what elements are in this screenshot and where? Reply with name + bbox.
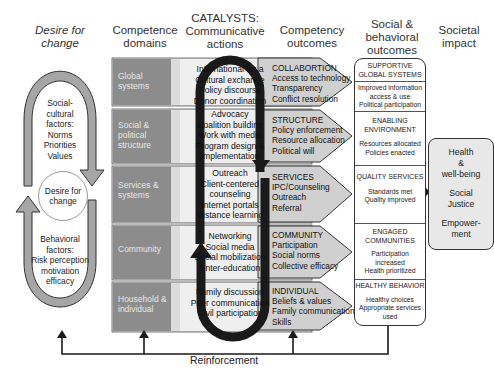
actions-global: International for aCultural exchangePoli… <box>188 64 272 106</box>
domain-social-political: Social & political structure <box>118 120 168 150</box>
outcome-structure: STRUCTUREPolicy enforcementResource allo… <box>272 115 345 156</box>
behavioral-factors: Behavioral factors: Risk perception moti… <box>26 234 94 287</box>
actions-social-political: AdvocacyCoalition buildingWork with medi… <box>186 109 274 162</box>
outcome-services: SERVICESIPC/CounselingOutreachReferral <box>272 172 330 213</box>
domain-services-systems: Services & systems <box>118 180 170 200</box>
domain-household-individual: Household & individual <box>118 294 170 314</box>
actions-community: NetworkingSocial mediaSocial mobilizatio… <box>186 231 274 273</box>
socio-cultural-factors: Social- cultural factors: Norms Prioriti… <box>30 98 90 161</box>
sb-supportive-global-systems: SUPPORTIVE GLOBAL SYSTEMS Improved infor… <box>355 62 425 110</box>
sb-quality-services: QUALITY SERVICES Standards metQuality im… <box>355 173 425 205</box>
actions-services: OutreachClient-centeredcounselingInterne… <box>186 168 274 221</box>
sb-engaged-communities: ENGAGED COMMUNITIES Participationincreas… <box>355 228 425 276</box>
outcome-individual: INDIVIDUALBeliefs & valuesFamily communi… <box>272 286 355 327</box>
outcome-collaboration: COLLABORTIONAccess to technologyTranspar… <box>272 63 350 104</box>
social-behavioral-outcomes-box: SUPPORTIVE GLOBAL SYSTEMS Improved infor… <box>354 58 426 326</box>
actions-household: Family discussionPeer communicationCivil… <box>186 287 274 319</box>
domain-community: Community <box>118 244 170 254</box>
outcome-community: COMMUNITYParticipationSocial normsCollec… <box>272 230 338 271</box>
societal-impact-box: Health & well-being Social Justice Empow… <box>428 138 494 250</box>
reinforcement-label: Reinforcement <box>190 354 258 366</box>
desire-for-change-circle: Desire for change <box>38 171 88 221</box>
domain-global-systems: Global systems <box>118 71 168 91</box>
sb-healthy-behavior: HEALTHY BEHAVIOR Healthy choicesAppropri… <box>355 282 425 321</box>
sb-enabling-environment: ENABLING ENVIRONMENT Resources allocated… <box>355 117 425 157</box>
